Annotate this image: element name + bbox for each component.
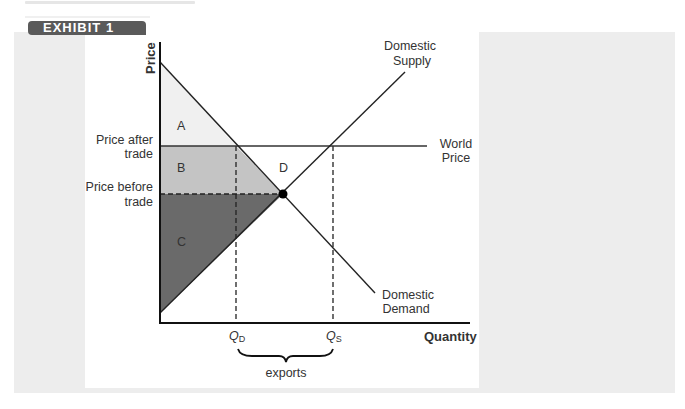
equilibrium-point	[279, 190, 288, 199]
exports-label: exports	[266, 366, 307, 380]
price-axis-label: Price	[143, 42, 158, 74]
region-d-label: D	[279, 161, 288, 175]
exports-brace	[238, 349, 333, 362]
supply-label-1: Domestic	[384, 39, 436, 53]
qs-label: QS	[326, 329, 342, 344]
demand-label-1: Domestic	[382, 288, 434, 302]
price-after-label-1: Price after	[96, 133, 153, 147]
world-price-label-1: World	[440, 137, 472, 151]
price-after-label-2: trade	[125, 147, 154, 161]
supply-demand-chart: Price Quantity Price after trade Price b…	[0, 0, 685, 409]
qd-label: QD	[229, 329, 246, 344]
region-b-label: B	[177, 161, 185, 175]
price-before-label-1: Price before	[86, 180, 153, 194]
price-before-label-2: trade	[125, 195, 154, 209]
demand-label-2: Demand	[382, 302, 429, 316]
quantity-axis-label: Quantity	[424, 329, 477, 344]
region-c-label: C	[177, 235, 186, 249]
supply-label-2: Supply	[393, 54, 432, 68]
world-price-label-2: Price	[442, 151, 471, 165]
region-a-label: A	[177, 119, 186, 133]
